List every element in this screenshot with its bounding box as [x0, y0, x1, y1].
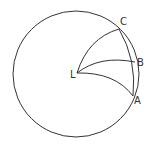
- label-b: B: [137, 57, 144, 68]
- label-c: C: [120, 16, 127, 27]
- arc-c-to-a: [119, 29, 134, 96]
- arc-l-to-a: [77, 73, 133, 96]
- label-a: A: [134, 95, 141, 106]
- outer-circle: [13, 11, 139, 137]
- diagram-svg: L C B A: [0, 0, 153, 146]
- arc-l-to-c: [77, 29, 119, 73]
- diagram-canvas: L C B A: [0, 0, 153, 146]
- arc-l-to-b: [77, 60, 135, 73]
- label-l: L: [70, 69, 76, 80]
